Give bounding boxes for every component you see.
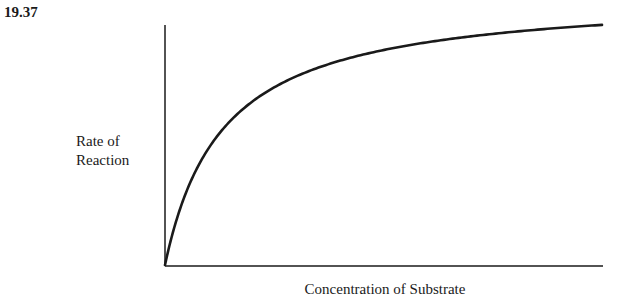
x-axis-label: Concentration of Substrate — [150, 281, 620, 298]
rate-curve — [165, 25, 602, 265]
plot-area — [0, 0, 623, 301]
